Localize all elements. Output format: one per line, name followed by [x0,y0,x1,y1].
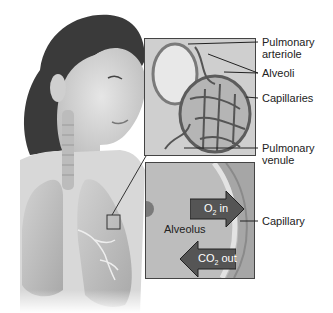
pulmonary-venule-label: Pulmonary venule [262,142,332,166]
pulmonary-arteriole-label: Pulmonary arteriole [262,36,332,60]
capillaries-label: Capillaries [262,92,313,104]
capillary-label: Capillary [262,215,305,227]
alveoli-label: Alveoli [262,67,294,79]
